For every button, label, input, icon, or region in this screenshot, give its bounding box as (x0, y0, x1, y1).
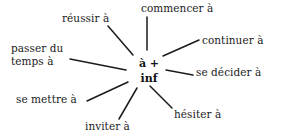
spoke-line-hesiter (150, 86, 172, 108)
spoke-line-inviter (119, 88, 137, 119)
node-label-hesiter: hésiter à (174, 108, 221, 121)
spoke-line-reussir (108, 26, 133, 55)
node-label-passer: passer du temps à (11, 42, 63, 67)
node-label-mettre: se mettre à (16, 93, 77, 106)
node-label-reussir: réussir à (62, 12, 109, 25)
hub-label-line1: à + (129, 57, 169, 70)
spoke-line-mettre (87, 82, 128, 101)
spoke-line-passer (70, 59, 126, 70)
node-label-decider: se décider à (196, 66, 261, 79)
node-label-inviter: inviter à (85, 120, 130, 133)
node-label-commencer: commencer à (141, 2, 213, 15)
node-label-continuer: continuer à (202, 34, 263, 47)
spoke-line-continuer (163, 40, 199, 56)
spoke-line-decider (166, 70, 193, 75)
hub-label-line2: inf (129, 72, 169, 85)
diagram-canvas: à + inf commencer à réussir à continuer … (0, 0, 285, 140)
